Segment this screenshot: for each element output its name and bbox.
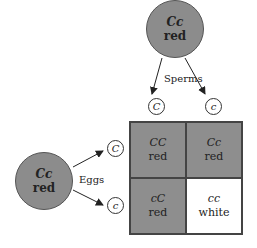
cell-phenotype: red — [149, 206, 168, 220]
cell-genotype: Cc — [207, 136, 222, 150]
punnett-cell-cC: cC red — [130, 178, 186, 234]
cell-phenotype: red — [205, 150, 224, 164]
punnett-square: CC red Cc red cC red cc white — [129, 121, 243, 235]
sperms-label: Sperms — [164, 73, 203, 84]
sperm-gamete-1: C — [148, 98, 165, 115]
cell-phenotype: white — [199, 206, 230, 220]
sperm-gamete-2: c — [205, 98, 222, 115]
cell-phenotype: red — [149, 150, 168, 164]
punnett-cell-cc: cc white — [186, 178, 242, 234]
female-genotype: Cc — [36, 167, 53, 181]
male-parent-circle: Cc red — [146, 0, 204, 58]
cell-genotype: CC — [150, 136, 167, 150]
punnett-cell-CC: CC red — [130, 122, 186, 178]
cell-genotype: cC — [151, 192, 166, 206]
male-phenotype: red — [164, 29, 186, 43]
egg-gamete-2: c — [107, 197, 124, 214]
eggs-label: Eggs — [79, 174, 104, 185]
cell-genotype: cc — [208, 192, 220, 206]
female-parent-circle: Cc red — [15, 152, 73, 210]
female-phenotype: red — [33, 181, 55, 195]
egg-gamete-1: C — [107, 140, 124, 157]
punnett-cell-Cc: Cc red — [186, 122, 242, 178]
male-genotype: Cc — [167, 15, 184, 29]
